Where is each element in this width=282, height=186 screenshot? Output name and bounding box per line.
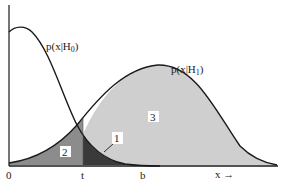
x-axis-label: x → (215, 168, 234, 180)
tick-t: t (81, 169, 84, 181)
region-1-label: 1 (114, 132, 120, 144)
tick-b: b (140, 169, 146, 181)
region-2 (9, 118, 83, 165)
region-3-label: 3 (150, 111, 156, 123)
curve-h0-label: p(x|H0) (46, 40, 79, 54)
region-2-label: 2 (62, 146, 68, 158)
tick-zero: 0 (6, 169, 12, 181)
region-3 (83, 65, 277, 165)
hypothesis-density-diagram: p(x|H0) p(x|H1) 1 2 3 0 t b x → (0, 0, 282, 186)
curve-h1-label: p(x|H1) (171, 63, 204, 77)
